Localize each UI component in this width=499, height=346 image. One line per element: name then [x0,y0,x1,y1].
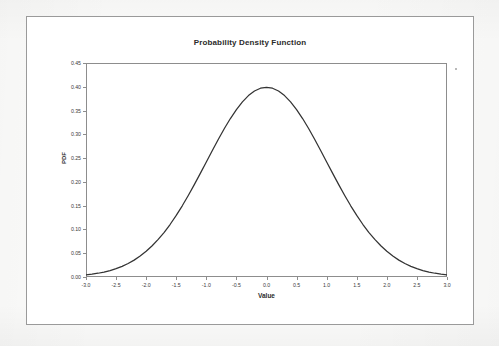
y-tick-label: 0.35 [59,108,81,114]
y-tick-mark [83,229,86,230]
x-tick-label: -2.0 [133,282,159,288]
x-tick-mark [176,277,177,280]
y-tick-label: 0.20 [59,179,81,185]
y-axis-title: PDF [61,138,67,178]
y-tick-mark [83,253,86,254]
x-tick-mark [297,277,298,280]
y-tick-mark [83,87,86,88]
x-axis-title: Value [86,292,447,299]
x-tick-label: 2.5 [404,282,430,288]
x-tick-mark [267,277,268,280]
y-tick-mark [83,63,86,64]
x-tick-label: 1.0 [314,282,340,288]
x-tick-mark [236,277,237,280]
x-tick-mark [206,277,207,280]
y-tick-label: 0.00 [59,274,81,280]
x-tick-label: 0.0 [254,282,280,288]
y-tick-mark [83,206,86,207]
x-tick-mark [146,277,147,280]
pdf-curve-plot [86,63,447,277]
x-tick-label: 3.0 [434,282,460,288]
y-tick-label: 0.10 [59,226,81,232]
pdf-curve-line [86,87,447,275]
y-tick-label: 0.40 [59,84,81,90]
x-tick-label: 0.5 [284,282,310,288]
x-tick-label: 2.0 [374,282,400,288]
x-tick-mark [357,277,358,280]
x-tick-label: -1.5 [163,282,189,288]
x-tick-label: -3.0 [73,282,99,288]
scan-artifact-speck [455,68,457,70]
x-tick-label: -1.0 [193,282,219,288]
y-tick-mark [83,158,86,159]
y-tick-mark [83,134,86,135]
y-tick-mark [83,182,86,183]
x-tick-mark [417,277,418,280]
y-tick-label: 0.15 [59,203,81,209]
x-tick-mark [86,277,87,280]
x-tick-label: -2.5 [103,282,129,288]
y-tick-mark [83,111,86,112]
x-tick-mark [387,277,388,280]
y-tick-label: 0.30 [59,131,81,137]
x-tick-mark [327,277,328,280]
x-tick-mark [447,277,448,280]
x-tick-mark [116,277,117,280]
x-tick-label: 1.5 [344,282,370,288]
chart-title: Probability Density Function [26,38,474,47]
x-tick-label: -0.5 [223,282,249,288]
y-tick-label: 0.05 [59,250,81,256]
y-tick-label: 0.45 [59,60,81,66]
